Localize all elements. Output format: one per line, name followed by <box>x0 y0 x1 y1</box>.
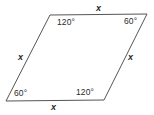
side-label-bottom: x <box>51 103 56 112</box>
side-label-left: x <box>18 53 23 62</box>
side-label-top: x <box>96 4 101 13</box>
angle-label-bottom-right: 120° <box>76 88 94 97</box>
geometry-figure: 120° 60° 60° 120° x x x x <box>0 0 154 115</box>
side-label-right: x <box>128 53 133 62</box>
angle-label-top-right: 60° <box>124 17 137 26</box>
angle-label-bottom-left: 60° <box>14 89 27 98</box>
angle-label-top-left: 120° <box>57 18 75 27</box>
